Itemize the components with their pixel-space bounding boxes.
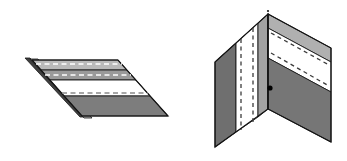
figure-container: Folding a striped sheet along parallel c… xyxy=(0,0,347,161)
flat-sheet-band-top-light-gray xyxy=(32,60,127,70)
left-wing-band-medium-gray xyxy=(258,14,268,117)
marked-vertex-dot xyxy=(267,85,272,90)
folding-diagram-svg xyxy=(0,0,347,161)
fold-apex-point xyxy=(267,10,269,12)
